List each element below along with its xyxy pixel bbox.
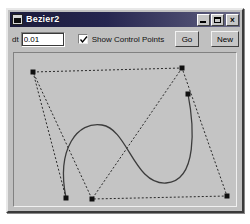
- control-point-handles[interactable]: [31, 66, 230, 202]
- app-window-icon: [12, 14, 23, 25]
- control-point-p5[interactable]: [64, 196, 69, 201]
- bezier-canvas[interactable]: [13, 52, 237, 207]
- close-button[interactable]: ×: [226, 14, 239, 26]
- title-bar[interactable]: Bezier2 ×: [10, 12, 240, 27]
- bezier-curve: [64, 94, 193, 198]
- close-icon: ×: [228, 15, 238, 25]
- bezier-drawing: [14, 53, 236, 206]
- show-control-points-label: Show Control Points: [92, 35, 164, 44]
- app-window: Bezier2 × dt Show Control Points Go New: [6, 8, 244, 213]
- check-icon: [79, 35, 89, 45]
- control-polygon-diagonals: [33, 68, 182, 199]
- maximize-button[interactable]: [211, 14, 224, 26]
- control-polygon-outline: [33, 68, 227, 199]
- control-point-p2[interactable]: [186, 92, 191, 97]
- control-point-p4[interactable]: [90, 197, 95, 202]
- control-point-p0[interactable]: [31, 70, 36, 75]
- window-title: Bezier2: [26, 14, 196, 25]
- new-button[interactable]: New: [211, 31, 239, 47]
- dt-input[interactable]: [21, 32, 65, 47]
- show-control-points-checkbox-group[interactable]: Show Control Points: [78, 34, 164, 44]
- minimize-button[interactable]: [197, 14, 210, 26]
- go-button[interactable]: Go: [175, 31, 199, 47]
- control-polygon: [33, 68, 227, 199]
- dt-label: dt: [12, 35, 19, 44]
- control-point-p3[interactable]: [225, 194, 230, 199]
- toolbar: dt Show Control Points Go New: [10, 28, 240, 50]
- show-control-points-checkbox[interactable]: [78, 34, 88, 44]
- control-point-p1[interactable]: [180, 66, 185, 71]
